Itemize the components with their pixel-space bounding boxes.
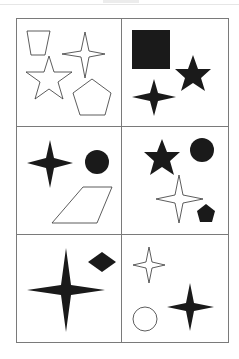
four-point-star-filled-icon [27, 140, 73, 188]
four-point-star-outline-icon [156, 175, 203, 223]
cell-r3-c1 [27, 248, 116, 332]
cell-r2-c1 [27, 140, 112, 223]
pentagon-outline-icon [73, 79, 111, 115]
parallelogram-outline-icon [52, 187, 112, 223]
trapezoid-outline-icon [27, 31, 50, 55]
five-point-star-filled-icon [144, 139, 180, 175]
four-point-star-filled-icon [132, 79, 176, 116]
cell-r1-c2 [132, 30, 211, 116]
diamond-filled-icon [88, 252, 116, 272]
cell-r1-c1 [26, 31, 111, 115]
circle-filled-icon [190, 138, 214, 162]
cell-r2-c2 [144, 138, 215, 223]
circle-filled-icon [85, 150, 109, 174]
four-point-star-filled-icon [167, 283, 214, 331]
cell-r3-c2 [133, 247, 214, 331]
five-point-star-outline-icon [26, 56, 72, 99]
shape-grid [0, 0, 239, 359]
square-filled-icon [132, 30, 170, 69]
four-point-star-outline-icon [133, 247, 165, 283]
five-point-star-filled-icon [175, 55, 211, 91]
pentagon-filled-icon [197, 204, 215, 222]
four-point-star-outline-icon [62, 32, 105, 78]
circle-outline-icon [133, 307, 157, 331]
